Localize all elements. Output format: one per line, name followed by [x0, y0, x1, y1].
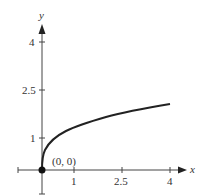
y-axis-label: y — [39, 10, 44, 21]
x-tick-label: 4 — [167, 176, 173, 187]
y-tick-label: 1 — [30, 133, 36, 144]
x-axis-arrow-icon — [178, 167, 187, 174]
x-tick-label: 2.5 — [114, 176, 128, 187]
origin-label: (0, 0) — [52, 156, 76, 167]
y-tick-label: 4 — [29, 37, 35, 48]
x-tick-label: 1 — [71, 176, 77, 187]
x-axis-label: x — [190, 164, 195, 175]
origin-point — [39, 167, 46, 174]
y-axis-arrow-icon — [39, 24, 46, 34]
y-tick-label: 2.5 — [22, 85, 36, 96]
graph — [0, 0, 204, 195]
